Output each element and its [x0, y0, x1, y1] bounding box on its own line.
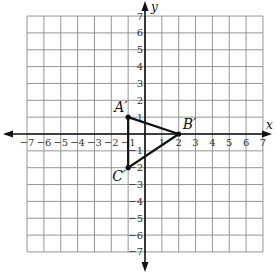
x-tick-label: 2	[176, 137, 182, 148]
vertex-label: B′	[182, 116, 197, 132]
y-tick-label: −7	[128, 246, 143, 257]
vertex-point	[126, 115, 131, 120]
y-tick-label: 4	[137, 61, 143, 72]
x-axis-left-arrow-icon	[3, 131, 13, 138]
y-axis-up-arrow-icon	[142, 1, 149, 11]
x-tick-label: −3	[87, 137, 102, 148]
y-axis-label: y	[150, 0, 158, 14]
x-axis-label: x	[266, 118, 273, 132]
x-tick-label: −4	[70, 137, 85, 148]
y-tick-label: −5	[128, 213, 143, 224]
y-tick-label: 6	[137, 27, 143, 38]
x-tick-label: −7	[20, 137, 35, 148]
vertex-label: A′	[112, 99, 128, 115]
coordinate-plane: xy−7−6−5−4−3−2−112345677654321−1−2−3−4−5…	[0, 0, 276, 274]
y-tick-label: 3	[137, 78, 143, 89]
x-tick-label: 4	[209, 137, 215, 148]
y-tick-label: −4	[128, 196, 143, 207]
y-tick-label: −1	[128, 145, 143, 156]
x-tick-label: 5	[226, 137, 232, 148]
x-tick-label: 6	[243, 137, 249, 148]
vertex-point	[176, 131, 181, 136]
x-tick-label: −5	[53, 137, 68, 148]
vertex-label: C′	[112, 168, 127, 184]
triangle-abc-prime	[128, 117, 179, 168]
y-tick-label: 7	[137, 11, 143, 22]
y-tick-label: −6	[128, 230, 143, 241]
y-tick-label: 5	[137, 44, 143, 55]
vertex-point	[126, 165, 131, 170]
graph-svg: xy−7−6−5−4−3−2−112345677654321−1−2−3−4−5…	[0, 0, 276, 274]
y-axis-down-arrow-icon	[142, 262, 149, 272]
x-tick-label: −6	[37, 137, 52, 148]
x-tick-label: −2	[104, 137, 119, 148]
y-tick-label: −3	[128, 179, 143, 190]
x-tick-label: 3	[192, 137, 198, 148]
x-tick-label: 7	[260, 137, 266, 148]
y-tick-label: 2	[137, 95, 143, 106]
